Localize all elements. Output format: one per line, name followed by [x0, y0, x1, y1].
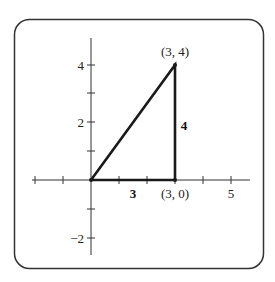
x-tick-label-5: 5	[228, 186, 235, 201]
side-label-base: 3	[130, 186, 137, 201]
y-tick-label-neg2: −2	[70, 231, 84, 246]
vertex-point-bottom	[173, 178, 177, 182]
diagram-frame	[15, 20, 264, 269]
y-tick-label-2: 2	[78, 115, 85, 130]
triangle-diagram: 4 2 −2 5 (3, 4) (3, 0) 3 4	[0, 0, 275, 282]
right-triangle	[91, 65, 175, 180]
point-label-3-0: (3, 0)	[161, 186, 189, 201]
point-label-3-4: (3, 4)	[161, 44, 189, 59]
vertex-point-origin	[89, 178, 93, 182]
y-tick-label-4: 4	[78, 58, 85, 73]
side-label-height: 4	[181, 118, 188, 133]
vertex-point-top	[173, 63, 177, 67]
